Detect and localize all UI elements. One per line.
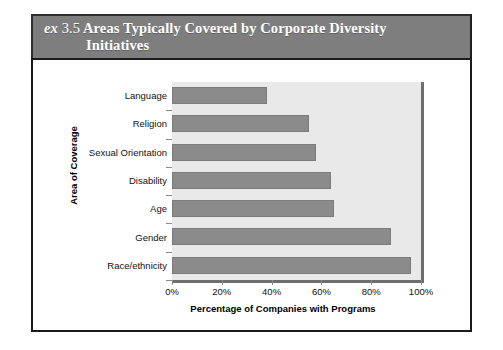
x-axis-tick-label: 100% (409, 286, 433, 297)
bar-race-ethnicity (172, 257, 411, 274)
bar-sexual-orientation (172, 144, 316, 161)
x-axis-tick (421, 280, 422, 285)
y-axis-tick-label: Sexual Orientation (61, 147, 167, 158)
y-axis-tick-label: Disability (61, 175, 167, 186)
x-axis-tick-labels: 0%20%40%60%80%100% (172, 286, 421, 299)
y-axis-tick-label: Age (61, 203, 167, 214)
y-axis-tick-labels: LanguageReligionSexual OrientationDisabi… (61, 82, 167, 280)
x-axis-tick-label: 0% (165, 286, 179, 297)
x-axis-tick-label: 40% (262, 286, 281, 297)
exhibit-container: ex 3.5 Areas Typically Covered by Corpor… (31, 14, 472, 332)
bar-row (172, 139, 421, 167)
x-axis-tick-label: 20% (212, 286, 231, 297)
y-axis-tick-label: Race/ethnicity (61, 260, 167, 271)
exhibit-title-text-line2: Initiatives (86, 37, 462, 54)
bar-row (172, 82, 421, 110)
bar-language (172, 87, 267, 104)
x-axis-tick (272, 280, 273, 285)
x-axis-title: Percentage of Companies with Programs (133, 303, 433, 314)
exhibit-title-text-line1: Areas Typically Covered by Corporate Div… (83, 20, 387, 36)
plot-area (172, 82, 424, 283)
y-axis-tick-label: Language (61, 90, 167, 101)
y-axis-tick-label: Gender (61, 232, 167, 243)
bar-row (172, 110, 421, 138)
bar-row (172, 167, 421, 195)
bar-row (172, 195, 421, 223)
bar-gender (172, 228, 391, 245)
x-axis-tick-label: 60% (312, 286, 331, 297)
exhibit-header-band: ex 3.5 Areas Typically Covered by Corpor… (31, 14, 472, 58)
y-axis-tick-label: Religion (61, 118, 167, 129)
exhibit-title: ex 3.5 Areas Typically Covered by Corpor… (44, 20, 462, 54)
x-axis-tick (371, 280, 372, 285)
bar-religion (172, 115, 309, 132)
exhibit-number: 3.5 (62, 20, 80, 36)
bar-row (172, 252, 421, 280)
bar-row (172, 223, 421, 251)
x-axis-tick (172, 280, 173, 285)
x-axis-tick (321, 280, 322, 285)
bar-disability (172, 172, 331, 189)
chart-frame: Area of Coverage LanguageReligionSexual … (31, 58, 472, 332)
exhibit-tag: ex (44, 20, 58, 36)
x-axis-tick-label: 80% (362, 286, 381, 297)
x-axis-tick (222, 280, 223, 285)
bar-age (172, 200, 334, 217)
